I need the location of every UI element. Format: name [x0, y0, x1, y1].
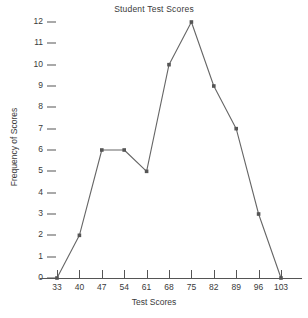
y-tick-mark — [47, 150, 56, 151]
x-tick-mark — [147, 270, 148, 278]
y-tick: 11 — [0, 43, 56, 44]
series-markers — [55, 20, 283, 280]
series-line — [57, 22, 281, 278]
data-point — [100, 148, 104, 152]
y-tick-mark — [47, 256, 56, 257]
x-tick-mark — [169, 270, 170, 278]
y-tick-label: 1 — [3, 250, 43, 261]
x-tick-mark — [191, 270, 192, 278]
y-tick: 12 — [0, 22, 56, 23]
x-tick-mark — [259, 270, 260, 278]
y-tick-mark — [47, 107, 56, 108]
x-tick-mark — [124, 270, 125, 278]
x-tick-label: 103 — [266, 282, 296, 292]
y-tick: 1 — [0, 256, 56, 257]
x-tick-mark — [236, 270, 237, 278]
x-tick-mark — [214, 270, 215, 278]
data-point — [190, 20, 194, 24]
y-tick-mark — [47, 128, 56, 129]
y-tick-mark — [47, 64, 56, 65]
x-tick-mark — [281, 270, 282, 278]
data-point — [234, 127, 238, 131]
y-tick: 2 — [0, 235, 56, 236]
data-point — [78, 234, 82, 238]
y-tick-mark — [47, 214, 56, 215]
y-tick-label: 0 — [3, 272, 43, 283]
x-axis-line — [40, 278, 302, 279]
data-series — [0, 0, 308, 318]
data-point — [212, 84, 216, 88]
y-tick-mark — [47, 192, 56, 193]
y-tick-mark — [47, 235, 56, 236]
y-tick: 10 — [0, 64, 56, 65]
y-tick-mark — [47, 86, 56, 87]
y-tick-label: 10 — [3, 58, 43, 69]
y-tick-mark — [47, 171, 56, 172]
data-point — [257, 212, 261, 216]
y-axis-title: Frequency of Scores — [9, 77, 19, 217]
data-point — [122, 148, 126, 152]
y-tick-label: 11 — [3, 37, 43, 48]
y-tick-mark — [47, 43, 56, 44]
x-tick-mark — [57, 270, 58, 278]
y-tick-label: 12 — [3, 16, 43, 27]
x-tick-mark — [102, 270, 103, 278]
y-tick-label: 2 — [3, 229, 43, 240]
x-axis-title: Test Scores — [0, 297, 308, 307]
data-point — [145, 170, 149, 174]
data-point — [167, 63, 171, 67]
plot-area: 0123456789101112 33404754616875828996103… — [0, 0, 308, 318]
x-tick-mark — [79, 270, 80, 278]
chart-container: Student Test Scores 0123456789101112 334… — [0, 0, 308, 318]
y-tick-mark — [47, 22, 56, 23]
